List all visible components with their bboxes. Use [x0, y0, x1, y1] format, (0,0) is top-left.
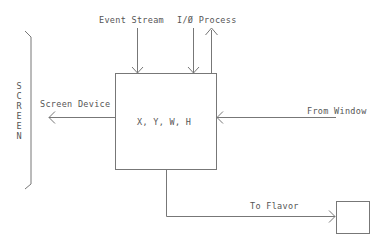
io-process-label: I/Ø Process: [177, 15, 237, 25]
to-flavor-arrow: [167, 169, 336, 223]
event-stream-arrow: [132, 28, 143, 73]
to-flavor-label: To Flavor: [250, 201, 299, 211]
flavor-box: [337, 202, 370, 234]
diagram-lines: [0, 0, 386, 243]
io-process-out-arrow: [206, 28, 218, 73]
screen-bracket-label: S C R E E N: [14, 81, 24, 141]
screen-device-arrow: [49, 112, 115, 124]
from-window-label: From Window: [307, 106, 367, 116]
screen-device-label: Screen Device: [40, 99, 110, 109]
io-process-in-arrow: [188, 28, 199, 73]
central-box-label: X, Y, W, H: [137, 117, 191, 127]
screen-bracket: [25, 31, 31, 189]
diagram-canvas: Event Stream I/Ø Process From Window Scr…: [0, 0, 386, 243]
event-stream-label: Event Stream: [99, 15, 164, 25]
